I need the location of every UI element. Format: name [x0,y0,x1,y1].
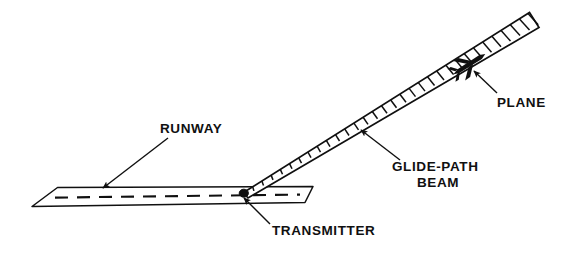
runway-group [32,187,313,207]
diagram-canvas: RUNWAY GLIDE-PATH BEAM TRANSMITTER PLANE [0,0,571,256]
transmitter-label: TRANSMITTER [272,223,375,238]
glide-path-beam-label-line2: BEAM [417,175,459,190]
transmitter-group [239,189,248,197]
transmitter-marker [239,189,248,197]
glide-path-leader [361,130,400,160]
plane-label: PLANE [497,95,546,110]
runway-label: RUNWAY [160,121,222,136]
plane-leader [474,71,497,93]
runway-leader [103,138,168,188]
glide-path-diagram: RUNWAY GLIDE-PATH BEAM TRANSMITTER PLANE [0,0,571,256]
glide-path-beam-label-line1: GLIDE-PATH [392,159,479,174]
